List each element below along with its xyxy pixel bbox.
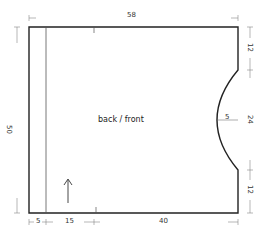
dim-right-top: 12 [246, 43, 253, 52]
dim-left-height: 50 [5, 125, 12, 134]
grain-arrow-icon [64, 179, 72, 203]
dim-right-bottom: 12 [246, 185, 253, 194]
piece-label: back / front [98, 115, 144, 124]
dim-top-width: 58 [127, 12, 136, 19]
dim-bottom-middle: 15 [65, 218, 74, 225]
dim-bottom-left: 5 [36, 218, 40, 225]
dim-arc-depth: 5 [225, 114, 229, 121]
dim-right-middle: 24 [246, 115, 253, 124]
dim-bottom-right: 40 [159, 218, 168, 225]
